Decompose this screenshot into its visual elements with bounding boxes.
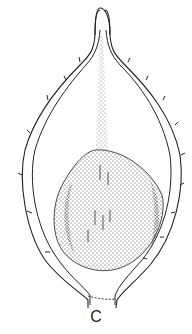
seed	[54, 150, 163, 271]
base-line	[88, 296, 116, 299]
panel-label: C	[0, 308, 192, 326]
botanical-fruit-illustration	[0, 0, 192, 334]
style-stipple	[96, 35, 108, 150]
